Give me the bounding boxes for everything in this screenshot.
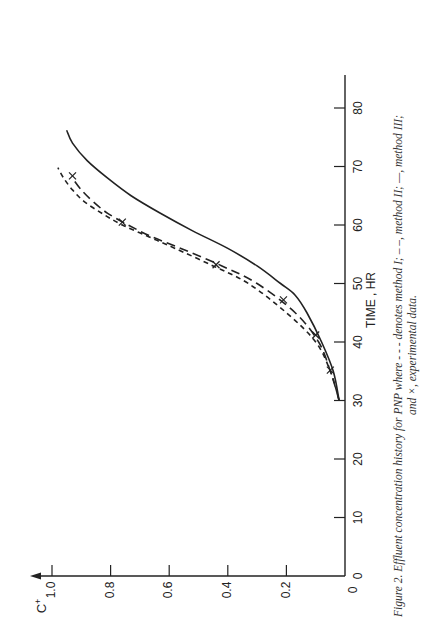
x-marker-icon [69,172,76,179]
y-tick-label: 0.4 [220,581,234,598]
x-tick-label: 0 [351,572,365,579]
axis-labels: C+ TIME , HR [33,272,378,614]
experimental-points [69,172,334,373]
series [58,130,339,400]
curve-method-ii [73,178,340,400]
figure-caption: Figure 2. Effluent concentration history… [392,115,419,618]
x-tick-label: 20 [351,452,365,466]
y-tick-label: 0.2 [279,581,293,598]
x-axis-label: TIME , HR [364,272,378,328]
curve-method-i [58,168,339,401]
x-tick-label: 60 [351,218,365,232]
y-axis-label: C+ [33,599,49,614]
curve-method-iii [67,130,339,400]
x-tick-label: 80 [351,101,365,115]
x-tick-label: 40 [351,335,365,349]
x-tick-label: 30 [351,394,365,408]
caption-line-1: Figure 2. Effluent concentration history… [392,115,405,618]
x-tick-label: 10 [351,511,365,525]
y-tick-label: 0.8 [103,581,117,598]
caption-line-2: and ×, experimental data. [406,295,419,415]
y-tick-label: 0.6 [161,581,175,598]
x-tick-label: 70 [351,160,365,174]
y-tick-label: 0 [346,586,360,593]
figure-chart: 0102030405060708000.20.40.60.81.0 C+ TIM… [0,0,428,638]
arrow-icon [30,573,41,580]
y-tick-label: 1.0 [44,581,58,598]
